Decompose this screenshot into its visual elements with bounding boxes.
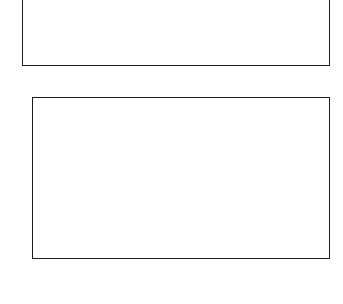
anchovy-chart-panel	[0, 78, 343, 304]
upper-chart-panel	[0, 0, 343, 76]
anchovy-plot-area	[32, 97, 330, 259]
upper-bar-series	[23, 0, 329, 65]
figure-page	[0, 0, 343, 304]
anchovy-bar-series	[33, 98, 329, 258]
upper-plot-area	[22, 0, 330, 66]
